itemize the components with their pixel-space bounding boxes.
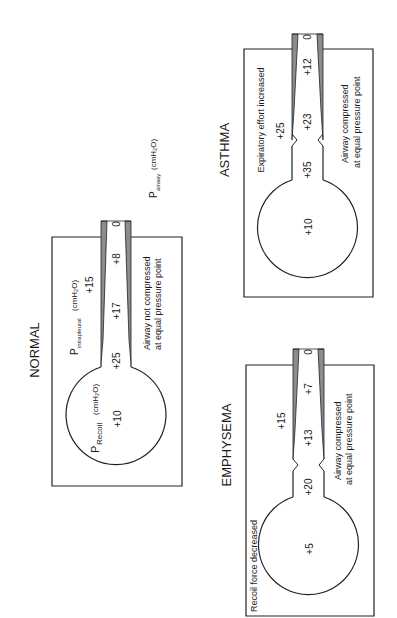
compression-notch-right bbox=[318, 134, 323, 146]
airway-wall-right bbox=[125, 221, 131, 363]
mouth-pressure: 0 bbox=[111, 221, 122, 227]
caption: Recoil force decreased bbox=[249, 520, 259, 612]
svg-text:intrapleural: intrapleural bbox=[76, 318, 82, 348]
airway-pressure-label: P airway (cmH₂O) bbox=[148, 139, 161, 198]
airway-pressure-3: +8 bbox=[111, 253, 122, 265]
recoil-pressure-label: P Recoil (cmH₂O) bbox=[89, 384, 104, 453]
airway-wall-right bbox=[317, 34, 323, 140]
svg-text:(cmH₂O): (cmH₂O) bbox=[149, 139, 158, 170]
mouth-pressure: 0 bbox=[303, 349, 314, 355]
airway-pressure-2: +17 bbox=[111, 302, 122, 319]
note-line-2: at equal pressure point bbox=[344, 393, 354, 485]
alveolar-pressure: +5 bbox=[304, 543, 315, 555]
airway-pressure-1: +20 bbox=[303, 478, 314, 495]
diagram-canvas: NORMAL 0 +25 +17 +8 +10 +15 P Recoil (cm… bbox=[0, 0, 397, 618]
mouth-pressure: 0 bbox=[302, 34, 313, 40]
caption: Expiratory effort increased bbox=[256, 68, 266, 173]
panel-emphysema: EMPHYSEMA 0 +20 +13 +7 +5 +15 Recoil for… bbox=[219, 349, 374, 616]
intrapleural-pressure: +25 bbox=[275, 122, 286, 139]
svg-text:P: P bbox=[148, 191, 159, 198]
compression-notch-left bbox=[293, 459, 298, 471]
note-line-1: Airway compressed bbox=[333, 401, 343, 480]
compression-notch-right bbox=[319, 459, 324, 471]
panel-title: EMPHYSEMA bbox=[219, 403, 234, 486]
airway-wall-right bbox=[318, 349, 324, 459]
alveolar-pressure: +10 bbox=[112, 410, 123, 427]
svg-text:(cmH₂O): (cmH₂O) bbox=[70, 280, 79, 311]
airway-pressure-3: +12 bbox=[302, 58, 313, 75]
airway-pressure-1: +25 bbox=[111, 352, 122, 369]
alveolar-pressure: +10 bbox=[303, 218, 314, 235]
svg-text:airway: airway bbox=[155, 174, 161, 191]
note-line-1: Airway compressed bbox=[340, 84, 350, 163]
airway-wall-left bbox=[292, 34, 298, 140]
panel-normal: NORMAL 0 +25 +17 +8 +10 +15 P Recoil (cm… bbox=[27, 139, 182, 486]
panel-title: ASTHMA bbox=[217, 123, 232, 178]
intrapleural-pressure-label: P intrapleural (cmH₂O) bbox=[69, 280, 82, 355]
airway-pressure-1: +35 bbox=[302, 161, 313, 178]
svg-text:Recoil: Recoil bbox=[95, 423, 104, 445]
airway-wall-left bbox=[293, 349, 299, 459]
svg-text:P: P bbox=[89, 446, 101, 453]
compression-notch-left bbox=[292, 134, 297, 146]
panel-title: NORMAL bbox=[27, 322, 42, 378]
airway-wall-left bbox=[101, 221, 107, 363]
airway-pressure-2: +13 bbox=[303, 429, 314, 446]
svg-text:(cmH₂O): (cmH₂O) bbox=[91, 384, 100, 415]
svg-text:P: P bbox=[69, 348, 80, 355]
note-line-2: at equal pressure point bbox=[352, 76, 362, 168]
intrapleural-pressure: +15 bbox=[276, 412, 287, 429]
intrapleural-pressure: +15 bbox=[84, 276, 95, 293]
airway-pressure-3: +7 bbox=[303, 383, 314, 395]
panel-asthma: ASTHMA 0 +35 +23 +12 +10 +25 Expiratory … bbox=[217, 34, 373, 297]
note-line-2: at equal pressure point bbox=[153, 258, 163, 350]
airway-pressure-2: +23 bbox=[302, 113, 313, 130]
note-line-1: Airway not compressed bbox=[142, 256, 152, 350]
